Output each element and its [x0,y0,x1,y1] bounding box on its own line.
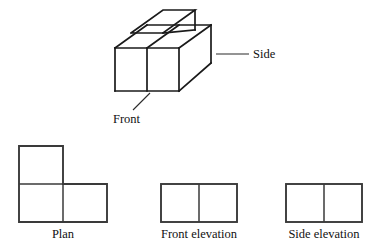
callout-side: Side [216,47,276,61]
side-label: Side [253,47,276,61]
front-leader-line [133,93,150,110]
figure-canvas: Side Front Plan Front elevation Sid [0,0,376,244]
side-elevation-caption: Side elevation [288,227,360,241]
orthographic-projection-figure: Side Front Plan Front elevation Sid [0,0,376,244]
view-side-elevation: Side elevation [286,184,362,241]
callout-front: Front [113,93,150,126]
front-elevation-caption: Front elevation [161,227,238,241]
front-label: Front [113,112,141,126]
view-front-elevation: Front elevation [161,184,238,241]
plan-caption: Plan [52,227,75,241]
isometric-cube-solid [115,10,211,91]
view-plan: Plan [19,146,107,241]
